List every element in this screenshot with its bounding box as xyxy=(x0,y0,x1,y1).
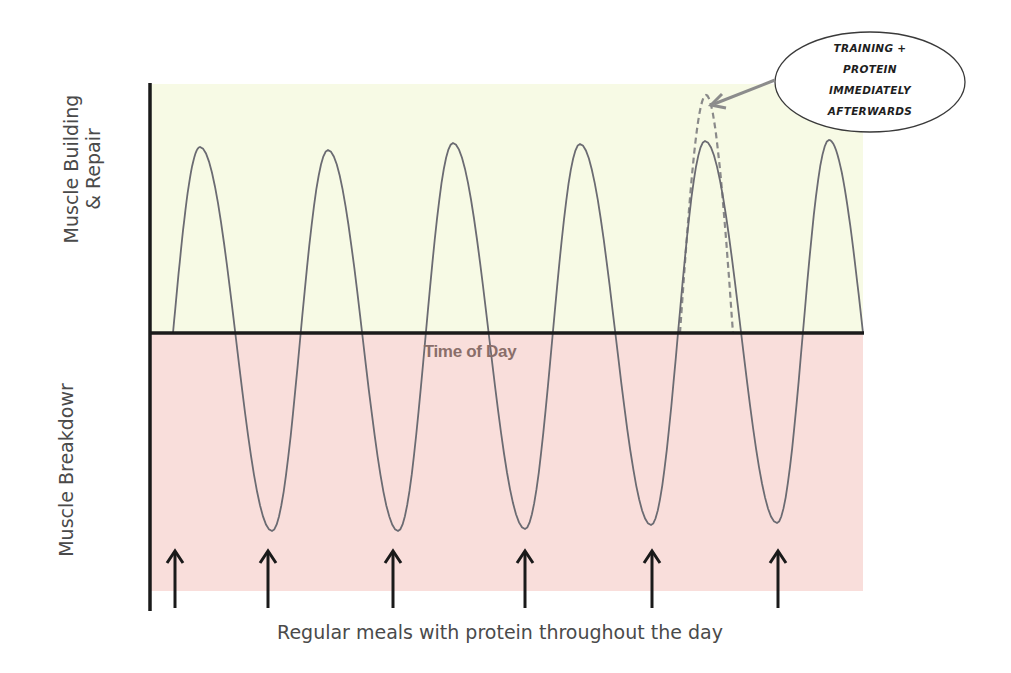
callout-line-3: IMMEDIATELY xyxy=(790,80,950,101)
callout-text: TRAINING + PROTEIN IMMEDIATELY AFTERWARD… xyxy=(790,38,950,122)
callout-line-1: TRAINING + xyxy=(790,38,950,59)
y-label-building-line1: Muscle Building xyxy=(60,59,82,279)
diagram-stage: Muscle Building & Repair Muscle Breakdow… xyxy=(0,0,1011,673)
callout-line-2: PROTEIN xyxy=(790,59,950,80)
y-label-breakdown-text: Muscle Breakdowr xyxy=(55,360,77,580)
x-axis-label: Time of Day xyxy=(390,342,550,362)
y-label-building-line2: & Repair xyxy=(82,59,104,279)
meals-caption: Regular meals with protein throughout th… xyxy=(180,621,820,643)
callout-line-4: AFTERWARDS xyxy=(790,101,950,122)
muscle-breakdown-zone xyxy=(151,333,863,591)
muscle-building-zone xyxy=(151,84,863,333)
